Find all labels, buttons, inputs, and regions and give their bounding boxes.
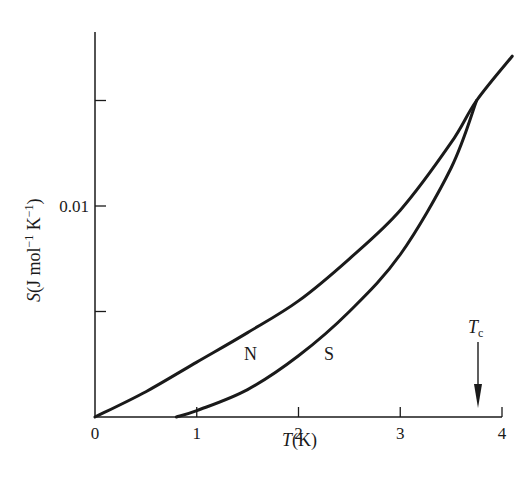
x-tick-label: 1: [193, 424, 202, 443]
x-tick-label: 4: [498, 424, 507, 443]
x-tick-label: 0: [91, 424, 100, 443]
entropy-chart: 012340.01 N S Tc T(K) S(J mol−1 K−1): [0, 0, 530, 484]
curve-label-n: N: [244, 344, 257, 364]
x-axis-title: T(K): [282, 430, 317, 451]
curves: [95, 56, 512, 417]
x-tick-label: 3: [396, 424, 405, 443]
y-tick-label: 0.01: [59, 197, 89, 216]
tc-arrow-head-icon: [474, 384, 482, 408]
curve-n: [95, 56, 512, 417]
tc-annotation: Tc: [468, 317, 483, 408]
axes: [95, 32, 502, 417]
tc-label: Tc: [468, 317, 483, 340]
curve-label-s: S: [324, 344, 334, 364]
tick-labels: 012340.01: [59, 197, 507, 443]
y-axis-title: S(J mol−1 K−1): [22, 198, 45, 302]
curve-s: [176, 101, 476, 418]
